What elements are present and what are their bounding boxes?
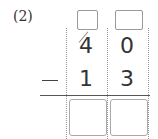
problem-label: (2) (13, 8, 33, 24)
borrow-box-tens[interactable] (77, 10, 98, 30)
minuend-ones-digit: 0 (109, 33, 145, 58)
column-divider-middle (107, 28, 108, 139)
subtrahend-tens-digit: 1 (68, 66, 104, 91)
minuend-tens-digit: 4 (68, 33, 104, 58)
sum-line (40, 95, 150, 96)
column-divider-right (148, 28, 149, 139)
minus-sign (42, 80, 58, 81)
subtrahend-ones-digit: 3 (109, 66, 145, 91)
answer-box-ones[interactable] (110, 99, 148, 136)
column-divider-left (66, 28, 67, 139)
borrow-box-ones[interactable] (115, 10, 143, 30)
answer-box-tens[interactable] (69, 99, 107, 136)
